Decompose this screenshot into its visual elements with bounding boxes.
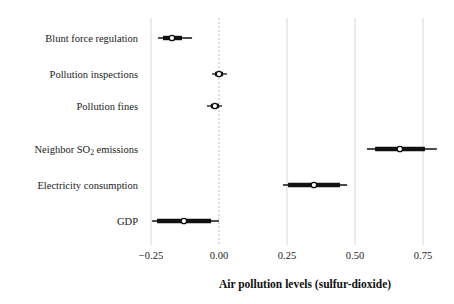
category-label: GDP xyxy=(117,216,138,227)
category-label: Electricity consumption xyxy=(37,180,138,191)
point-estimate-marker xyxy=(216,71,221,76)
coefficient-plot: Blunt force regulationPollution inspecti… xyxy=(0,0,454,304)
x-axis-title: Air pollution levels (sulfur-dioxide) xyxy=(219,278,391,291)
point-estimate-marker xyxy=(181,218,186,223)
x-tick-label: 0.50 xyxy=(346,250,364,261)
x-tick-label: 0.75 xyxy=(414,250,432,261)
point-estimate-marker xyxy=(212,103,217,108)
point-estimate-marker xyxy=(169,35,174,40)
x-tick-label: 0.00 xyxy=(210,250,228,261)
category-label: Pollution inspections xyxy=(50,69,138,80)
point-estimate-marker xyxy=(397,146,402,151)
x-tick-label: 0.25 xyxy=(278,250,296,261)
point-estimate-marker xyxy=(311,182,316,187)
x-tick-label: −0.25 xyxy=(139,250,163,261)
category-label: Blunt force regulation xyxy=(45,33,138,44)
category-label: Pollution fines xyxy=(76,101,138,112)
